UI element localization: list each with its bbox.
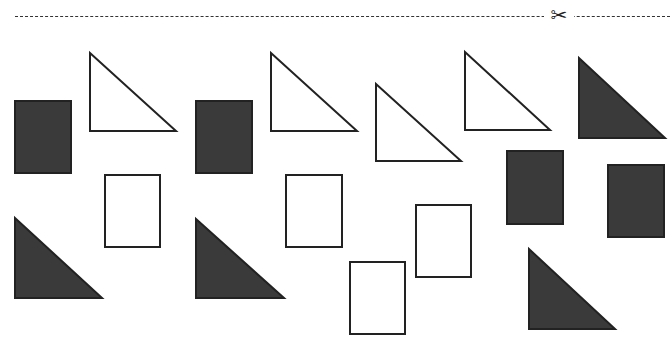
- filled-triangle-t2: [15, 218, 102, 298]
- outline-rectangle-r4: [286, 175, 342, 247]
- outline-triangle-t1: [90, 53, 176, 131]
- outline-triangle-t5: [376, 84, 461, 161]
- filled-triangle-t7: [579, 58, 665, 138]
- filled-rectangle-r3: [196, 101, 252, 173]
- filled-rectangle-r1: [15, 101, 71, 173]
- outline-rectangle-r2: [105, 175, 160, 247]
- filled-rectangle-r7: [507, 151, 563, 224]
- filled-triangle-t4: [196, 219, 284, 298]
- outline-rectangle-r6: [416, 205, 471, 277]
- outline-rectangle-r5: [350, 262, 405, 334]
- outline-triangle-t3: [271, 53, 357, 131]
- shapes-layer: [0, 0, 670, 346]
- worksheet-canvas: ✂: [0, 0, 670, 346]
- filled-triangle-t8: [529, 249, 615, 329]
- outline-triangle-t6: [465, 52, 550, 130]
- filled-rectangle-r8: [608, 165, 664, 237]
